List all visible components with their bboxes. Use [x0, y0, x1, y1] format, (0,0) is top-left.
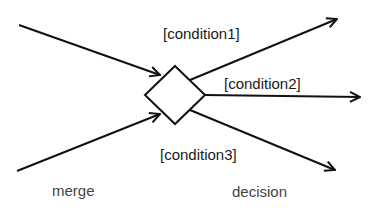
incoming-edge-bottom [17, 114, 160, 171]
decision-diamond [145, 66, 205, 124]
caption-merge: merge [52, 183, 95, 198]
guard-label-condition2: [condition2] [224, 76, 301, 91]
incoming-edge-top [19, 25, 160, 75]
caption-decision: decision [232, 184, 287, 199]
guard-label-condition1: [condition1] [163, 26, 240, 41]
guard-label-condition3: [condition3] [160, 147, 237, 162]
diagram-canvas: [condition1] [condition2] [condition3] m… [0, 0, 381, 216]
outgoing-edge-condition2 [205, 95, 360, 97]
